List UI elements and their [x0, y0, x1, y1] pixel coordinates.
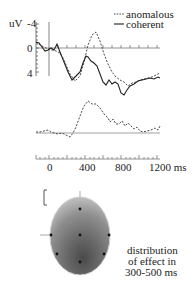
- legend-coherent-label: coherent: [126, 19, 164, 30]
- series-coherent: [36, 42, 160, 95]
- x-tick-label-0: 0: [47, 162, 53, 173]
- topo-caption-line3: 300-500 ms: [125, 267, 177, 278]
- y-axis: [36, 22, 39, 76]
- scale-bar-icon: [44, 190, 47, 205]
- x-tick-label-400: 400: [79, 162, 96, 173]
- x-tick-label-800: 800: [115, 162, 132, 173]
- series-anomalous: [36, 32, 160, 86]
- y-axis-unit-label: uV: [9, 18, 22, 29]
- zero-baseline: [36, 45, 160, 48]
- topo-map: [40, 191, 110, 275]
- x-axis: [36, 155, 160, 159]
- y-tick-label-0: 0: [27, 43, 33, 54]
- series-difference: [36, 101, 160, 137]
- y-tick-label-neg4: -4: [27, 18, 36, 29]
- x-tick-label-1200: 1200 ms: [149, 162, 187, 173]
- y-tick-label-4: 4: [27, 68, 33, 79]
